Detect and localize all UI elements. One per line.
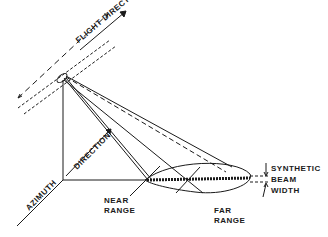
synthetic-label-2: BEAM	[271, 175, 297, 185]
beam-far-lower	[64, 80, 203, 193]
sar-diagram	[0, 0, 328, 237]
far-range-label-1: FAR	[214, 206, 232, 216]
synthetic-label-1: SYNTHETIC	[271, 164, 321, 174]
synthetic-beam-stripe	[147, 178, 250, 180]
synthetic-label-3: WIDTH	[271, 186, 300, 196]
near-range-label-1: NEAR	[104, 196, 129, 206]
near-range-label-2: RANGE	[104, 206, 135, 216]
far-range-label-2: RANGE	[214, 216, 245, 226]
